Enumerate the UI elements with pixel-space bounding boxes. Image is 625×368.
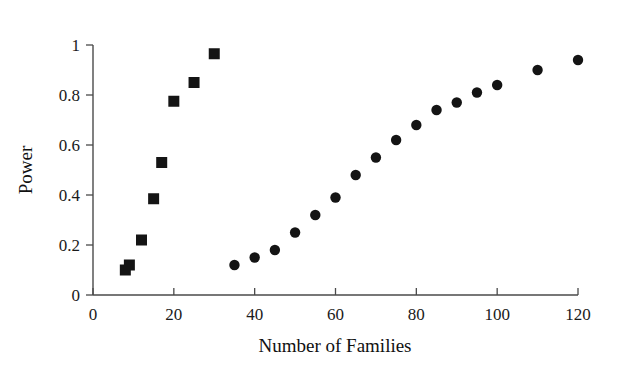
data-point-circles-4: [310, 210, 320, 220]
y-tick-label-1: 0.2: [59, 236, 80, 255]
y-axis-title: Power: [15, 145, 36, 194]
scatter-plot-figure: 00.20.40.60.81020406080100120 Number of …: [0, 0, 625, 368]
x-tick-label-4: 80: [408, 305, 425, 324]
data-point-circles-1: [249, 252, 259, 262]
data-point-circles-15: [573, 55, 583, 65]
x-tick-label-0: 0: [89, 305, 98, 324]
data-point-squares-7: [209, 48, 220, 59]
data-point-circles-2: [270, 245, 280, 255]
data-point-circles-3: [290, 227, 300, 237]
tick-label-group: 00.20.40.60.81020406080100120: [59, 36, 591, 324]
data-point-circles-5: [330, 192, 340, 202]
series-circles: [229, 55, 583, 270]
data-marker-group: [120, 48, 583, 275]
x-tick-label-5: 100: [484, 305, 510, 324]
y-tick-label-2: 0.4: [59, 186, 81, 205]
data-point-squares-2: [136, 235, 147, 246]
x-axis-title: Number of Families: [258, 335, 411, 356]
x-tick-label-2: 40: [246, 305, 263, 324]
data-point-circles-9: [411, 120, 421, 130]
series-squares: [120, 48, 220, 275]
data-point-circles-11: [452, 97, 462, 107]
data-point-squares-4: [156, 157, 167, 168]
data-point-circles-7: [371, 152, 381, 162]
data-point-squares-3: [148, 193, 159, 204]
x-tick-label-6: 120: [565, 305, 591, 324]
data-point-circles-6: [351, 170, 361, 180]
y-tick-label-3: 0.6: [59, 136, 80, 155]
y-tick-label-4: 0.8: [59, 86, 80, 105]
x-tick-label-1: 20: [165, 305, 182, 324]
y-tick-label-5: 1: [72, 36, 81, 55]
data-point-circles-13: [492, 80, 502, 90]
data-point-circles-8: [391, 135, 401, 145]
data-point-circles-0: [229, 260, 239, 270]
data-point-circles-14: [532, 65, 542, 75]
data-point-circles-12: [472, 87, 482, 97]
data-point-squares-1: [124, 260, 135, 271]
data-point-circles-10: [431, 105, 441, 115]
data-point-squares-6: [189, 77, 200, 88]
data-point-squares-5: [168, 96, 179, 107]
y-tick-label-0: 0: [72, 286, 81, 305]
tick-group: [86, 45, 578, 295]
x-tick-label-3: 60: [327, 305, 344, 324]
plot-canvas: 00.20.40.60.81020406080100120 Number of …: [0, 0, 625, 368]
